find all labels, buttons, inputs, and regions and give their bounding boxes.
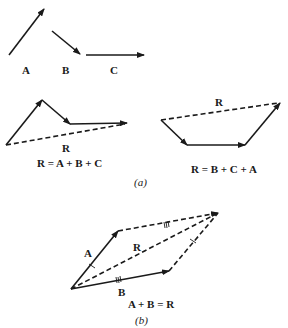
vector-b (52, 31, 80, 54)
label-r-right: R (215, 96, 224, 108)
equation-bca: R = B + C + A (191, 163, 257, 175)
sum-bca (161, 103, 280, 145)
vector-a (9, 9, 44, 55)
label-b-b: B (118, 286, 126, 298)
label-a-b: A (84, 247, 92, 259)
equation-ab: A + B = R (128, 298, 175, 310)
label-r-b: R (133, 241, 142, 253)
label-b: B (62, 64, 70, 76)
sum-abc (6, 100, 127, 145)
caption-b: (b) (135, 314, 148, 327)
label-c: C (110, 64, 118, 76)
equation-abc: R = A + B + C (37, 157, 102, 169)
parallelogram (71, 213, 218, 289)
caption-a: (a) (134, 176, 147, 189)
label-a: A (22, 64, 30, 76)
label-r-left: R (62, 142, 71, 154)
vector-addition-diagram: A B C R R = A + B + C R R = B + C + A (a… (0, 0, 288, 328)
